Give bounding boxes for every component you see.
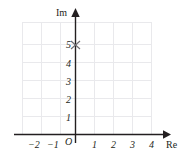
y-tick-label-4: 4: [66, 59, 71, 69]
x-tick-label-neg2: −2: [28, 140, 40, 150]
x-tick-label-neg1: −1: [47, 140, 59, 150]
y-tick-label-2: 2: [66, 95, 71, 105]
y-tick-label-5: 5: [66, 40, 71, 50]
grid-lines: [22, 22, 152, 134]
y-tick-label-3: 3: [66, 77, 71, 87]
origin-label: O: [65, 137, 72, 147]
imaginary-axis-label: Im: [56, 8, 67, 18]
x-tick-label-3: 3: [130, 140, 135, 150]
real-axis-label: Re: [166, 140, 177, 150]
x-tick-label-4: 4: [149, 140, 154, 150]
complex-plane-figure: Im Re O −2 −1 1 2 3 4 1 2 3 4 5: [0, 0, 186, 165]
y-tick-label-1: 1: [66, 113, 71, 123]
real-axis: [14, 130, 171, 138]
x-tick-label-1: 1: [92, 140, 97, 150]
x-tick-label-2: 2: [111, 140, 116, 150]
imaginary-axis: [71, 8, 79, 143]
